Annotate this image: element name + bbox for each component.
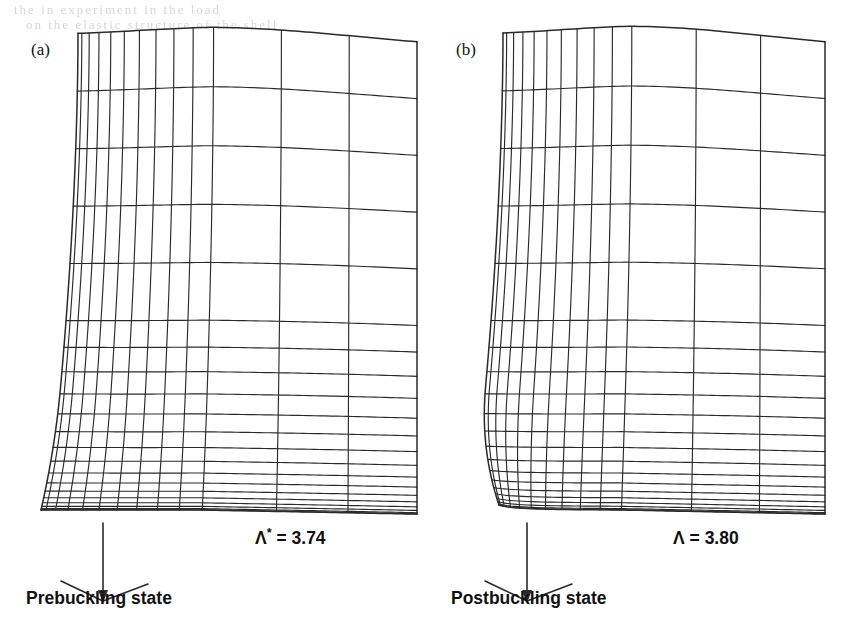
caption-prebuckling: Prebuckling state	[26, 588, 172, 609]
lambda-value-a: Λ* = 3.74	[255, 528, 326, 549]
caption-postbuckling: Postbuckling state	[451, 588, 607, 609]
panel-postbuckling: (b) Λ = 3.80 Postbuckling state	[429, 0, 859, 636]
lambda-value-b: Λ = 3.80	[673, 528, 739, 549]
mesh-prebuckling	[0, 0, 430, 520]
panel-prebuckling: (a) Λ* = 3.74 Prebuckling state	[0, 0, 430, 636]
mesh-postbuckling	[429, 0, 859, 520]
